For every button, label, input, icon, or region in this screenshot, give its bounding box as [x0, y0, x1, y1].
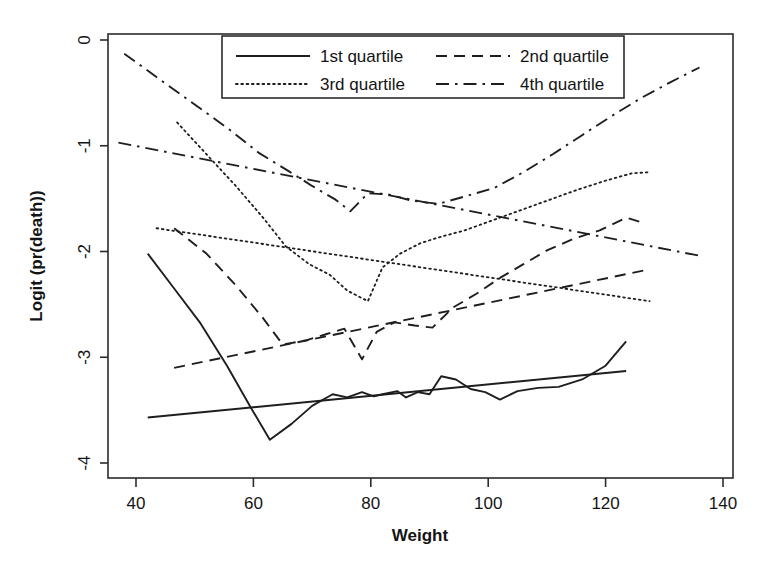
- x-tick-label: 60: [244, 494, 263, 513]
- legend-label-3rd-quartile: 3rd quartile: [320, 75, 405, 94]
- y-axis-ticks: 0-1-2-3-4: [75, 35, 109, 470]
- y-tick-label: -2: [75, 244, 94, 259]
- data-curves: [118, 54, 699, 440]
- x-axis-ticks: 406080100120140: [127, 478, 738, 513]
- x-axis-title: Weight: [392, 526, 449, 545]
- series-line-2nd-quartile-fitted: [174, 271, 644, 368]
- y-tick-label: -1: [75, 138, 94, 153]
- x-tick-label: 100: [474, 494, 502, 513]
- y-axis-title: Logit (pr(death)): [27, 190, 46, 321]
- series-line-3rd-quartile-fitted: [157, 228, 650, 301]
- x-tick-label: 80: [361, 494, 380, 513]
- chart-figure: 0-1-2-3-4 406080100120140 Logit (pr(deat…: [0, 0, 771, 564]
- legend-label-1st-quartile: 1st quartile: [320, 47, 403, 66]
- x-tick-label: 140: [709, 494, 737, 513]
- x-tick-label: 40: [127, 494, 146, 513]
- y-tick-label: 0: [75, 35, 94, 44]
- legend-label-2nd-quartile: 2nd quartile: [520, 47, 609, 66]
- x-tick-label: 120: [591, 494, 619, 513]
- legend-label-4th-quartile: 4th quartile: [520, 75, 604, 94]
- series-line-1st-quartile-fitted: [148, 371, 626, 418]
- line-chart-svg: 0-1-2-3-4 406080100120140 Logit (pr(deat…: [0, 0, 771, 564]
- series-line-1st-quartile-empirical: [148, 254, 626, 440]
- y-tick-label: -3: [75, 350, 94, 365]
- series-line-2nd-quartile-empirical: [174, 218, 644, 360]
- y-tick-label: -4: [75, 455, 94, 470]
- series-line-4th-quartile-fitted: [118, 143, 699, 256]
- series-line-3rd-quartile-empirical: [177, 122, 650, 301]
- chart-legend: 1st quartile 2nd quartile 3rd quartile 4…: [222, 36, 624, 98]
